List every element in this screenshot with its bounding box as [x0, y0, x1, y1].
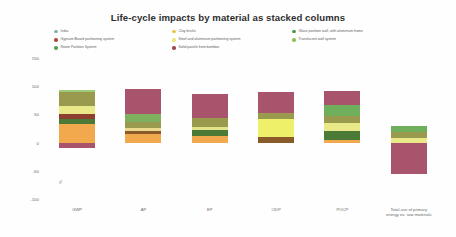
bar-segment [125, 89, 161, 114]
bar-segment [59, 143, 95, 148]
y-axis-tick-label: 100 [32, 84, 39, 89]
y-axis-tick-label: 150 [32, 56, 39, 61]
stacked-bar [125, 89, 161, 143]
stacked-bar [258, 92, 294, 142]
legend-item[interactable]: Steel and aluminium partitioning system [172, 36, 312, 43]
chart-column[interactable]: ODP [243, 58, 309, 199]
bar-segment [125, 134, 161, 142]
bar-segment [59, 124, 95, 143]
bar-segment [324, 105, 360, 115]
legend-item-label: Room Partition System [61, 44, 97, 51]
legend-item-label: Translucent wall system [299, 36, 336, 43]
bar-segment [192, 94, 228, 118]
bar-segment [192, 118, 228, 127]
bar-segment [324, 116, 360, 123]
bar-segment [125, 114, 161, 122]
bar-segment [258, 119, 294, 137]
chart-column[interactable]: EP [177, 58, 243, 199]
legend-item-label: Glass partition wall, with aluminium fra… [299, 28, 363, 35]
legend-item[interactable]: Room Partition System [54, 44, 174, 51]
chart-title: Life-cycle impacts by material as stacke… [0, 12, 456, 23]
legend-item[interactable]: Clay bricks [172, 28, 312, 35]
bar-segment [324, 131, 360, 140]
legend-swatch-icon [54, 38, 58, 42]
legend-swatch-icon [172, 46, 176, 50]
bar-segment [324, 91, 360, 105]
chart-container: Life-cycle impacts by material as stacke… [0, 0, 456, 237]
plot-area: % 150100500-50-100GWPAPEPODPPOCPTotal us… [44, 58, 442, 199]
x-axis-tick-label: ODP [242, 207, 310, 212]
legend-item[interactable]: Glass partition wall, with aluminium fra… [292, 28, 442, 35]
legend-item-label: Gypsum Board partitioning system [61, 36, 115, 43]
bar-segment [258, 92, 294, 113]
bar-segment [324, 123, 360, 131]
legend-swatch-icon [54, 30, 58, 34]
bar-segment [258, 137, 294, 143]
legend-swatch-icon [54, 46, 58, 50]
x-axis-tick-label: POCP [308, 207, 376, 212]
stacked-bar [324, 91, 360, 142]
bar-segment [59, 106, 95, 114]
y-axis-tick-label: -50 [33, 168, 39, 173]
chart-legend: IndiaGypsum Board partitioning systemRoo… [54, 28, 439, 52]
bar-segment [324, 140, 360, 143]
stacked-bar [59, 90, 95, 148]
legend-swatch-icon [292, 30, 296, 34]
stacked-bar [391, 126, 427, 174]
legend-item[interactable]: Solid panels from bamboo [172, 44, 312, 51]
bar-segment [391, 143, 427, 175]
x-axis-tick-label: EP [176, 207, 244, 212]
chart-column[interactable]: AP [110, 58, 176, 199]
bar-segment [391, 126, 427, 133]
chart-column[interactable]: GWP [44, 58, 110, 199]
legend-item-label: Steel and aluminium partitioning system [179, 36, 241, 43]
stacked-bar [192, 94, 228, 142]
bar-segment [59, 92, 95, 106]
legend-swatch-icon [172, 38, 176, 42]
legend-item-label: Clay bricks [179, 28, 196, 35]
legend-swatch-icon [172, 30, 176, 34]
legend-item[interactable]: Gypsum Board partitioning system [54, 36, 174, 43]
y-axis-tick-label: 50 [34, 112, 39, 117]
x-axis-tick-label: GWP [43, 207, 111, 212]
legend-column-3: Glass partition wall, with aluminium fra… [292, 28, 442, 44]
legend-item-label: India [61, 28, 69, 35]
x-axis-tick-label: AP [109, 207, 177, 212]
chart-column[interactable]: Total use of primary energy ex. raw mate… [376, 58, 442, 199]
legend-column-2: Clay bricksSteel and aluminium partition… [172, 28, 312, 52]
y-axis-tick-label: -100 [30, 197, 39, 202]
legend-item-label: Solid panels from bamboo [179, 44, 220, 51]
legend-item[interactable]: India [54, 28, 174, 35]
y-axis-tick-label: 0 [37, 140, 39, 145]
legend-item[interactable]: Translucent wall system [292, 36, 442, 43]
chart-column[interactable]: POCP [309, 58, 375, 199]
bar-segment [192, 136, 228, 143]
x-axis-tick-label: Total use of primary energy ex. raw mate… [375, 207, 443, 218]
legend-column-1: IndiaGypsum Board partitioning systemRoo… [54, 28, 174, 52]
legend-swatch-icon [292, 38, 296, 42]
